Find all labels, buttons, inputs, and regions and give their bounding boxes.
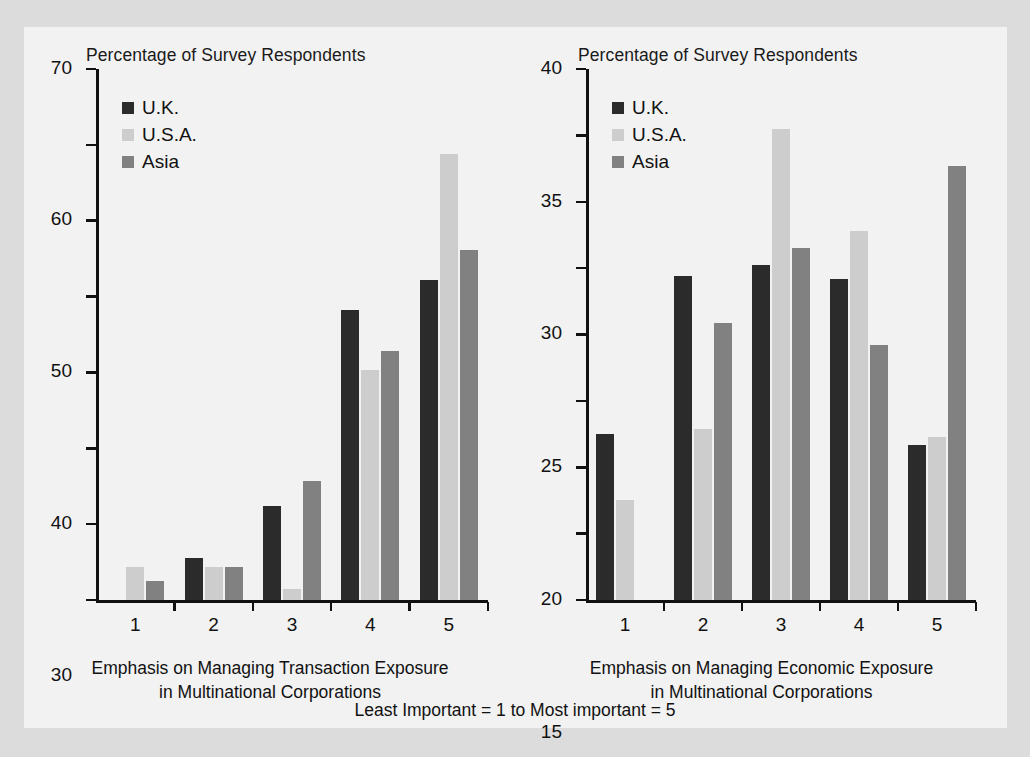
legend-item-uk: U.K. [612, 94, 687, 121]
y-tick-label: 40 [51, 512, 72, 534]
chart-left-legend: U.K. U.S.A. Asia [122, 94, 197, 175]
bar-uk-3 [752, 265, 770, 600]
x-tick-label: 4 [854, 614, 865, 636]
legend-item-usa: U.S.A. [122, 121, 197, 148]
bar-asia-1 [146, 581, 164, 600]
y-tick-label: 50 [51, 360, 72, 382]
x-tick-label: 2 [698, 614, 709, 636]
legend-swatch-asia [612, 156, 624, 168]
y-tick: 5 [576, 532, 586, 535]
y-tick: 0 [86, 599, 96, 602]
x-tick [173, 602, 176, 611]
legend-label-uk: U.K. [632, 98, 669, 117]
y-tick: 10 [576, 466, 586, 469]
chart-transaction-exposure: Percentage of Survey Respondents 0102030… [24, 27, 516, 728]
legend-item-usa: U.S.A. [612, 121, 687, 148]
bar-usa-1 [126, 567, 144, 600]
bar-uk-3 [263, 506, 281, 600]
x-tick [975, 602, 978, 611]
x-tick-label: 4 [365, 614, 376, 636]
chart-left-x-caption: Emphasis on Managing Transaction Exposur… [24, 657, 516, 704]
x-axis-line [586, 600, 976, 603]
legend-swatch-asia [122, 156, 134, 168]
y-tick: 20 [576, 333, 586, 336]
chart-right-plot-area: 0510152025303540 12345 U.K. U.S.A. Asia [586, 69, 976, 600]
x-tick-label: 1 [130, 614, 141, 636]
legend-label-asia: Asia [632, 152, 669, 171]
x-tick-label: 2 [208, 614, 219, 636]
y-tick: 40 [576, 68, 586, 71]
y-tick-label: 70 [51, 57, 72, 79]
y-tick: 30 [576, 201, 586, 204]
y-tick: 20 [86, 447, 96, 450]
y-tick: 50 [86, 219, 96, 222]
x-tick [330, 602, 333, 611]
chart-right-x-caption: Emphasis on Managing Economic Exposure i… [516, 657, 1007, 704]
bar-uk-5 [420, 280, 438, 600]
bar-asia-5 [948, 166, 966, 600]
bar-usa-5 [440, 154, 458, 600]
bar-asia-2 [714, 323, 732, 600]
y-tick: 15 [576, 400, 586, 403]
x-tick [663, 602, 666, 611]
legend-label-usa: U.S.A. [632, 125, 687, 144]
legend-swatch-usa [612, 129, 624, 141]
chart-left-plot-area: 010203040506070 12345 U.K. U.S.A. Asia [96, 69, 488, 600]
y-tick-label: 25 [541, 455, 562, 477]
y-axis-line [96, 69, 99, 600]
bar-usa-4 [361, 370, 379, 600]
y-tick-label: 60 [51, 208, 72, 230]
bar-asia-2 [225, 567, 243, 600]
bar-uk-4 [341, 310, 359, 600]
legend-label-asia: Asia [142, 152, 179, 171]
scale-note: Least Important = 1 to Most important = … [0, 700, 1030, 721]
chart-right-legend: U.K. U.S.A. Asia [612, 94, 687, 175]
bar-uk-2 [674, 276, 692, 600]
y-tick: 0 [576, 599, 586, 602]
y-tick: 10 [86, 523, 96, 526]
chart-right-x-caption-line1: Emphasis on Managing Economic Exposure [516, 657, 1007, 681]
y-tick-label: 40 [541, 57, 562, 79]
bar-usa-1 [616, 500, 634, 600]
y-tick: 30 [86, 371, 96, 374]
y-tick: 40 [86, 295, 96, 298]
bar-asia-4 [381, 351, 399, 600]
legend-swatch-usa [122, 129, 134, 141]
bar-asia-3 [792, 248, 810, 600]
legend-swatch-uk [612, 102, 624, 114]
bar-asia-3 [303, 481, 321, 600]
x-tick [897, 602, 900, 611]
bar-usa-5 [928, 437, 946, 600]
bar-usa-2 [205, 567, 223, 600]
y-tick-label: 15 [541, 721, 562, 743]
legend-item-asia: Asia [122, 148, 197, 175]
x-axis-line [96, 600, 488, 603]
bar-uk-4 [830, 279, 848, 600]
figure-background: Percentage of Survey Respondents 0102030… [0, 0, 1030, 757]
chart-left-x-caption-line1: Emphasis on Managing Transaction Exposur… [24, 657, 516, 681]
legend-label-usa: U.S.A. [142, 125, 197, 144]
bar-uk-5 [908, 445, 926, 600]
x-tick-label: 3 [776, 614, 787, 636]
bar-asia-4 [870, 345, 888, 600]
x-tick-label: 1 [620, 614, 631, 636]
bar-usa-4 [850, 231, 868, 600]
legend-item-uk: U.K. [122, 94, 197, 121]
y-axis-line [586, 69, 589, 600]
legend-item-asia: Asia [612, 148, 687, 175]
x-tick-label: 5 [444, 614, 455, 636]
chart-economic-exposure: Percentage of Survey Respondents 0510152… [516, 27, 1007, 728]
chart-left-axis-title: Percentage of Survey Respondents [86, 45, 365, 66]
x-tick-label: 5 [932, 614, 943, 636]
y-tick: 25 [576, 267, 586, 270]
figure-panel: Percentage of Survey Respondents 0102030… [24, 27, 1007, 728]
x-tick-label: 3 [287, 614, 298, 636]
legend-label-uk: U.K. [142, 98, 179, 117]
bar-uk-1 [596, 434, 614, 600]
chart-right-axis-title: Percentage of Survey Respondents [578, 45, 857, 66]
x-tick [408, 602, 411, 611]
y-tick: 60 [86, 144, 96, 147]
legend-swatch-uk [122, 102, 134, 114]
x-tick [487, 602, 490, 611]
y-tick-label: 20 [541, 588, 562, 610]
